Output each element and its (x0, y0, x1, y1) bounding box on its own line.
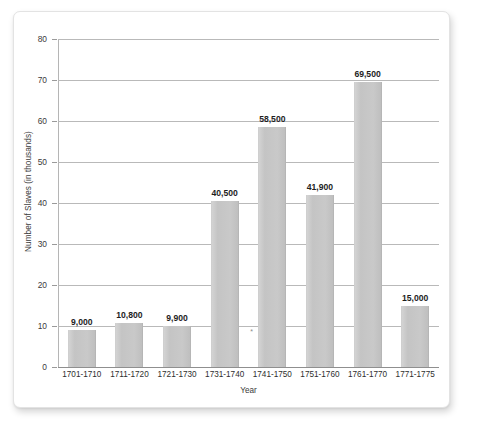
bar-1731-1740 (211, 201, 239, 367)
screenshot-root: 01020304050607080 9,0001701-171010,80017… (0, 0, 477, 433)
y-tick-mark-70 (52, 80, 57, 81)
gridline-50 (58, 162, 439, 163)
y-tick-mark-20 (52, 285, 57, 286)
gridline-20 (58, 285, 439, 286)
y-tick-mark-0 (52, 367, 57, 368)
y-tick-mark-30 (52, 244, 57, 245)
bar-value-label-1761-1770: 69,500 (342, 69, 394, 79)
bar-1701-1710 (68, 330, 96, 367)
y-tick-mark-40 (52, 203, 57, 204)
bar-1741-1750 (258, 127, 286, 367)
y-tick-label-70: 70 (14, 75, 47, 85)
bar-1711-1720 (115, 323, 143, 367)
gridline-80 (58, 39, 439, 40)
gridline-70 (58, 80, 439, 81)
bar-value-label-1741-1750: 58,500 (246, 114, 298, 124)
x-tick-label-1751-1760: 1751-1760 (294, 370, 346, 379)
x-tick-label-1721-1730: 1721-1730 (151, 370, 203, 379)
figure-card: 01020304050607080 9,0001701-171010,80017… (13, 11, 450, 408)
x-tick-label-1761-1770: 1761-1770 (342, 370, 394, 379)
bar-value-label-1771-1775: 15,000 (389, 293, 441, 303)
y-axis-title: Number of Slaves (in thousands) (24, 102, 33, 282)
y-tick-label-10: 10 (14, 321, 47, 331)
y-tick-mark-60 (52, 121, 57, 122)
bar-1751-1760 (306, 195, 334, 367)
bar-value-label-1701-1710: 9,000 (56, 317, 108, 327)
bar-1721-1730 (163, 326, 191, 367)
bar-value-label-1711-1720: 10,800 (103, 310, 155, 320)
x-axis-title: Year (58, 386, 439, 395)
y-tick-label-0: 0 (14, 362, 47, 372)
gridline-30 (58, 244, 439, 245)
y-tick-mark-50 (52, 162, 57, 163)
bar-1771-1775 (401, 306, 429, 368)
x-tick-label-1701-1710: 1701-1710 (56, 370, 108, 379)
x-tick-label-1771-1775: 1771-1775 (389, 370, 441, 379)
x-tick-label-1741-1750: 1741-1750 (246, 370, 298, 379)
bar-value-label-1721-1730: 9,900 (151, 313, 203, 323)
bar-value-label-1731-1740: 40,500 (199, 188, 251, 198)
y-tick-label-80: 80 (14, 34, 47, 44)
bar-chart: 01020304050607080 9,0001701-171010,80017… (14, 12, 451, 409)
gridline-40 (58, 203, 439, 204)
y-tick-mark-80 (52, 39, 57, 40)
footnote-asterisk: * (250, 328, 253, 335)
x-tick-label-1731-1740: 1731-1740 (199, 370, 251, 379)
bar-1761-1770 (354, 82, 382, 367)
bar-value-label-1751-1760: 41,900 (294, 182, 346, 192)
x-tick-label-1711-1720: 1711-1720 (103, 370, 155, 379)
